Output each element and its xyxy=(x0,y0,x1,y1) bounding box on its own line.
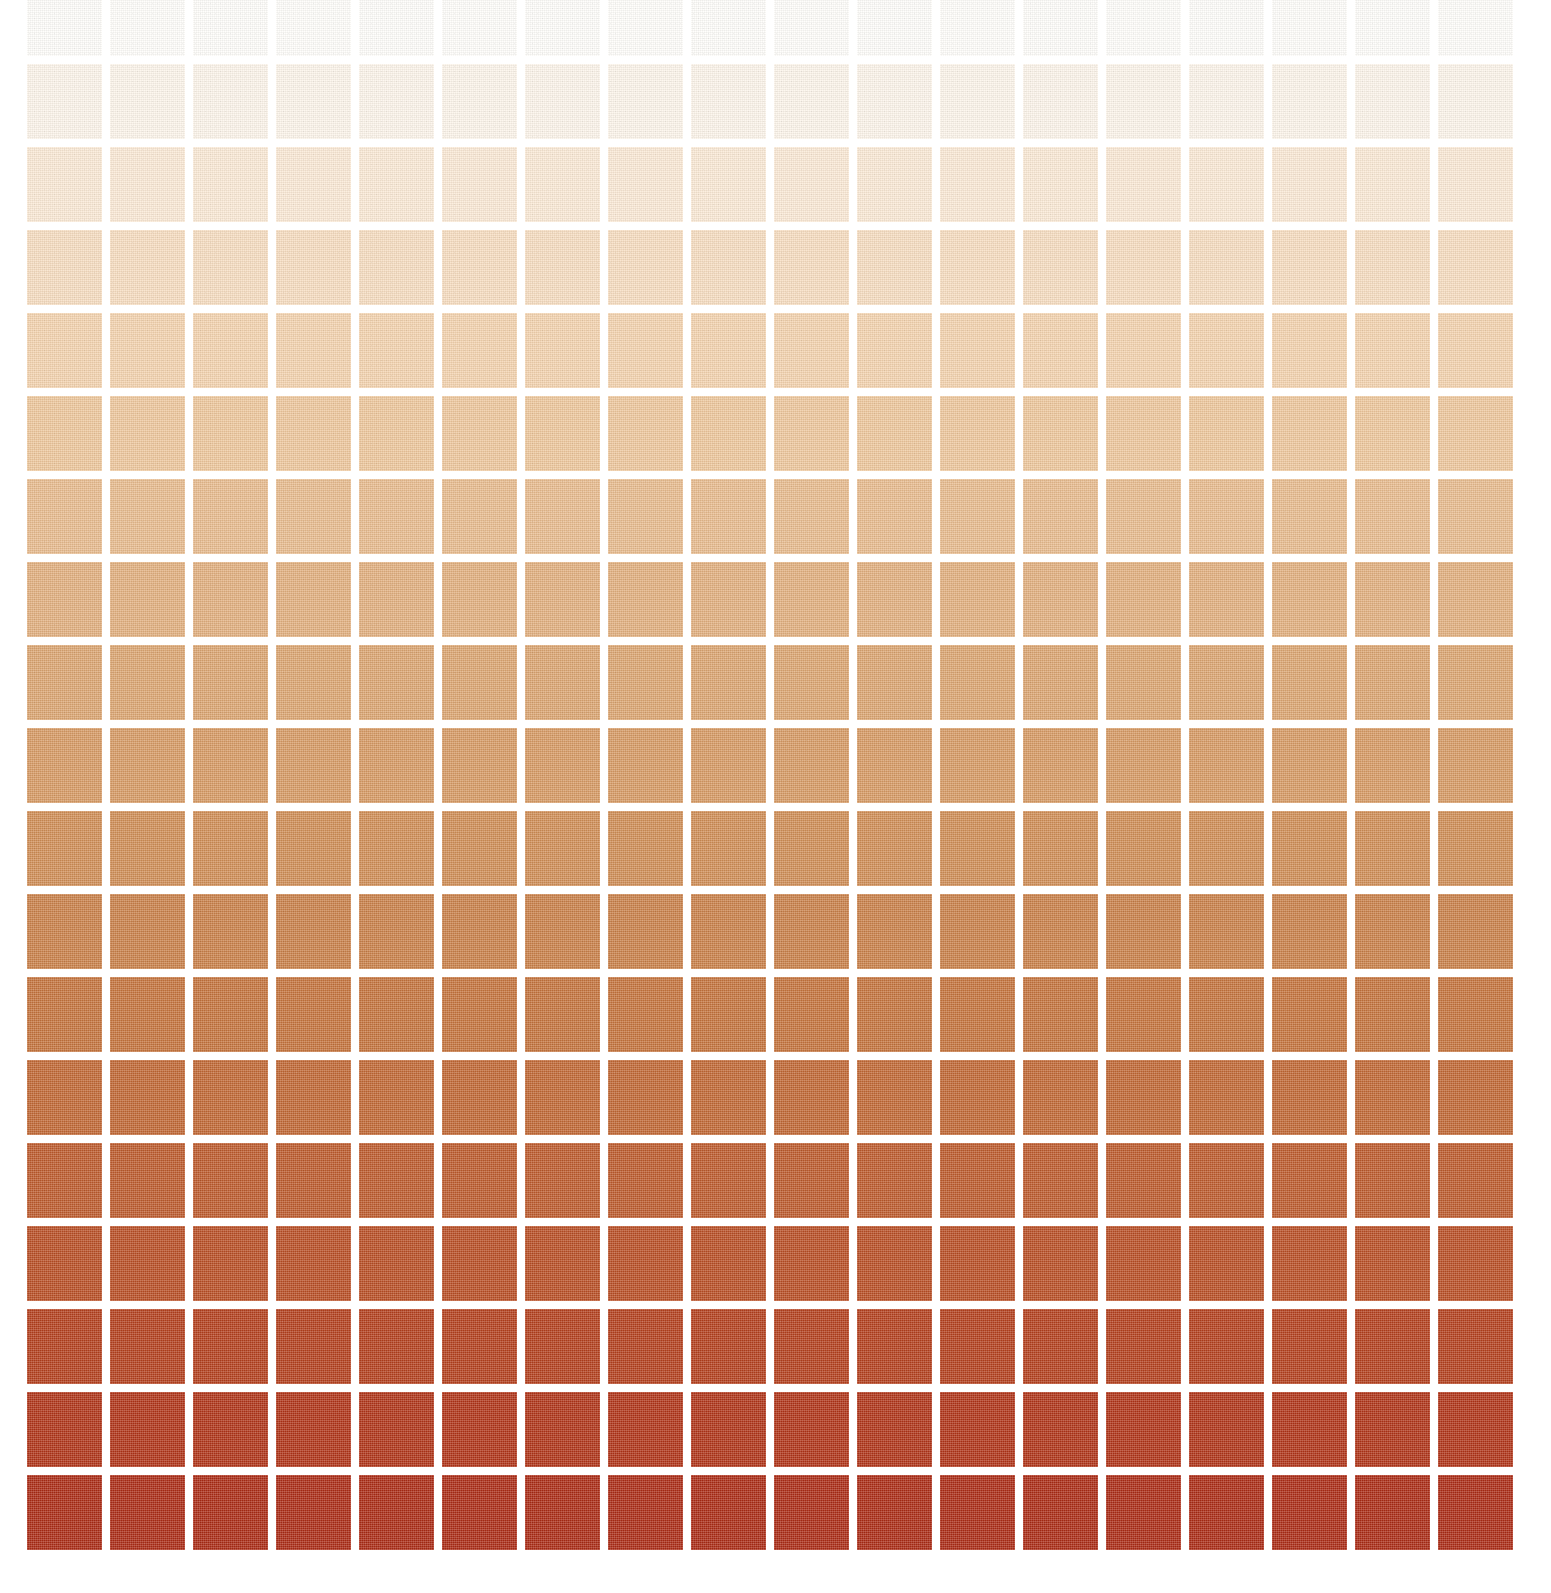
color-swatch xyxy=(276,64,351,139)
color-swatch xyxy=(1438,728,1513,803)
color-swatch xyxy=(1023,894,1098,969)
color-swatch xyxy=(774,977,849,1052)
swatch-grid xyxy=(27,0,1513,1550)
color-swatch xyxy=(1189,728,1264,803)
color-swatch xyxy=(857,147,932,222)
color-swatch xyxy=(774,1475,849,1550)
color-swatch xyxy=(940,894,1015,969)
color-swatch xyxy=(1438,894,1513,969)
color-swatch xyxy=(1106,479,1181,554)
color-swatch xyxy=(1189,1309,1264,1384)
color-swatch xyxy=(1272,1226,1347,1301)
color-swatch xyxy=(276,1143,351,1218)
color-swatch xyxy=(525,479,600,554)
color-swatch xyxy=(525,1475,600,1550)
color-swatch xyxy=(940,479,1015,554)
color-swatch xyxy=(1272,977,1347,1052)
color-swatch xyxy=(27,147,102,222)
color-swatch xyxy=(193,1309,268,1384)
color-swatch xyxy=(193,479,268,554)
color-swatch xyxy=(276,894,351,969)
color-swatch xyxy=(940,1475,1015,1550)
color-swatch xyxy=(1355,1392,1430,1467)
color-swatch xyxy=(359,147,434,222)
color-swatch xyxy=(442,977,517,1052)
color-swatch xyxy=(608,811,683,886)
color-swatch xyxy=(442,1143,517,1218)
color-swatch xyxy=(857,728,932,803)
color-swatch xyxy=(359,313,434,388)
color-swatch xyxy=(1272,64,1347,139)
color-swatch xyxy=(1438,147,1513,222)
color-swatch xyxy=(359,396,434,471)
color-swatch xyxy=(193,645,268,720)
color-swatch xyxy=(1189,147,1264,222)
color-swatch xyxy=(1355,728,1430,803)
color-swatch xyxy=(1106,64,1181,139)
color-swatch xyxy=(691,1060,766,1135)
color-swatch xyxy=(691,313,766,388)
color-swatch xyxy=(691,1475,766,1550)
color-swatch xyxy=(1106,894,1181,969)
color-swatch xyxy=(1189,64,1264,139)
color-swatch xyxy=(608,977,683,1052)
color-swatch xyxy=(608,1060,683,1135)
color-swatch xyxy=(608,479,683,554)
color-swatch xyxy=(193,894,268,969)
color-swatch xyxy=(1355,1060,1430,1135)
color-swatch xyxy=(193,230,268,305)
color-swatch xyxy=(27,977,102,1052)
color-swatch xyxy=(442,1226,517,1301)
color-swatch xyxy=(1355,230,1430,305)
color-swatch xyxy=(691,562,766,637)
color-swatch xyxy=(1106,1475,1181,1550)
color-swatch xyxy=(857,1060,932,1135)
color-swatch xyxy=(1272,1309,1347,1384)
color-swatch xyxy=(1189,811,1264,886)
color-swatch xyxy=(940,1309,1015,1384)
color-swatch xyxy=(1189,230,1264,305)
color-swatch xyxy=(1438,562,1513,637)
color-swatch xyxy=(1106,0,1181,56)
color-swatch xyxy=(1438,1060,1513,1135)
color-swatch xyxy=(110,0,185,56)
color-swatch xyxy=(608,894,683,969)
color-swatch xyxy=(1106,1143,1181,1218)
color-swatch xyxy=(608,1143,683,1218)
color-swatch xyxy=(27,396,102,471)
color-swatch xyxy=(276,0,351,56)
color-swatch xyxy=(774,64,849,139)
color-swatch xyxy=(525,728,600,803)
color-swatch xyxy=(774,645,849,720)
color-swatch xyxy=(1023,1392,1098,1467)
color-swatch xyxy=(359,894,434,969)
color-swatch xyxy=(1438,1143,1513,1218)
color-swatch xyxy=(193,147,268,222)
color-swatch xyxy=(110,562,185,637)
color-swatch xyxy=(608,396,683,471)
color-swatch xyxy=(193,1475,268,1550)
color-swatch xyxy=(1189,1475,1264,1550)
color-swatch xyxy=(1023,645,1098,720)
color-swatch xyxy=(193,313,268,388)
color-swatch xyxy=(442,0,517,56)
color-swatch xyxy=(1272,811,1347,886)
color-swatch xyxy=(1023,1309,1098,1384)
color-swatch xyxy=(1438,1392,1513,1467)
color-swatch xyxy=(691,645,766,720)
color-swatch xyxy=(691,396,766,471)
color-swatch xyxy=(193,1392,268,1467)
color-swatch xyxy=(27,1475,102,1550)
color-swatch xyxy=(857,894,932,969)
color-swatch xyxy=(608,728,683,803)
color-swatch xyxy=(1023,811,1098,886)
color-swatch xyxy=(193,811,268,886)
color-swatch xyxy=(608,64,683,139)
color-swatch xyxy=(110,1060,185,1135)
color-swatch xyxy=(1355,562,1430,637)
color-swatch xyxy=(276,811,351,886)
color-swatch xyxy=(857,1143,932,1218)
color-swatch xyxy=(525,64,600,139)
color-swatch xyxy=(359,1392,434,1467)
color-swatch xyxy=(27,64,102,139)
